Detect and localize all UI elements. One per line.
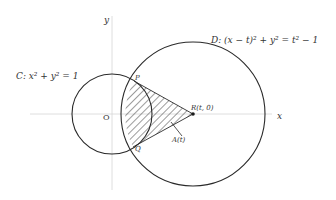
diagram-canvas: y x O C: x² + y² = 1 D: (x − t)² + y² = … bbox=[0, 0, 336, 200]
x-axis-label: x bbox=[277, 111, 282, 121]
circle-c-equation: C: x² + y² = 1 bbox=[16, 71, 78, 81]
point-r-label: R(t, 0) bbox=[190, 104, 214, 112]
a-t-leader-line bbox=[171, 122, 182, 136]
point-r bbox=[191, 112, 195, 116]
origin-label: O bbox=[103, 113, 110, 122]
point-q-label: Q bbox=[135, 145, 141, 153]
region-a-t-label: A(t) bbox=[171, 136, 186, 144]
circle-d-equation: D: (x − t)² + y² = t² − 1 bbox=[210, 35, 318, 45]
point-p-label: P bbox=[134, 74, 140, 82]
y-axis-label: y bbox=[103, 15, 110, 25]
